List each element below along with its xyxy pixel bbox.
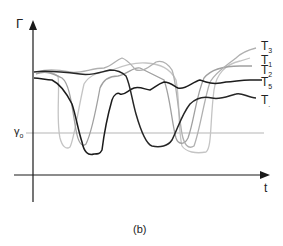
threshold-label: γo — [14, 126, 23, 139]
legend-t3-sub: 3 — [268, 47, 272, 54]
x-axis-label: t — [264, 182, 267, 194]
legend-label-t3: T3 — [261, 40, 272, 54]
series-tx-line — [34, 70, 256, 147]
threshold-subscript: o — [20, 132, 24, 139]
legend-label-t5: T5 — [261, 76, 272, 90]
chart-canvas — [0, 0, 283, 246]
legend-t5-sub: 5 — [268, 83, 272, 90]
y-axis-label: Γ — [16, 17, 23, 30]
y-axis-arrow-icon — [29, 20, 37, 30]
legend-tx-sub: . — [268, 101, 270, 108]
figure-caption: (b) — [133, 224, 146, 235]
legend-label-tx: T. — [261, 94, 270, 108]
x-axis-arrow-icon — [260, 171, 270, 179]
